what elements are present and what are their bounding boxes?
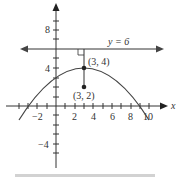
x-tick-2: 2 bbox=[72, 111, 77, 122]
focus-point bbox=[82, 85, 87, 90]
x-axis-arrow-icon bbox=[160, 103, 168, 110]
right-angle-marker bbox=[78, 49, 84, 55]
y-tick-neg4: −4 bbox=[38, 139, 49, 150]
y-tick-8: 8 bbox=[45, 24, 50, 35]
vertex-point bbox=[82, 66, 87, 71]
y-tick-4: 4 bbox=[45, 63, 50, 74]
x-tick-neg2: −2 bbox=[32, 111, 43, 122]
x-axis-label: x bbox=[170, 100, 176, 111]
y-axis-arrow-icon bbox=[53, 3, 60, 11]
parabola-diagram: 8 4 −4 x −2 2 4 6 8 10 y = bbox=[0, 0, 186, 179]
x-tick-8: 8 bbox=[128, 111, 133, 122]
y-axis bbox=[53, 3, 60, 168]
directrix-line bbox=[20, 46, 164, 53]
directrix-label: y = 6 bbox=[107, 36, 129, 47]
bottom-divider bbox=[15, 174, 155, 177]
x-tick-4: 4 bbox=[91, 111, 96, 122]
focus-label: (3, 2) bbox=[73, 90, 95, 102]
vertex-label: (3, 4) bbox=[88, 56, 110, 68]
x-tick-6: 6 bbox=[110, 111, 115, 122]
